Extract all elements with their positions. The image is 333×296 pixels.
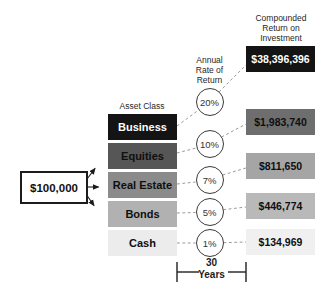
return-box-business: $38,396,396 xyxy=(246,46,315,72)
asset-box-real-estate: Real Estate xyxy=(108,172,177,198)
rate-circle-real-estate: 7% xyxy=(196,166,224,194)
asset-box-cash: Cash xyxy=(108,230,177,256)
return-box-cash: $134,969 xyxy=(246,229,315,255)
return-box-equities: $1,983,740 xyxy=(246,109,315,135)
asset-class-header: Asset Class xyxy=(104,101,180,111)
compounded-return-header: Compounded Return on Investment xyxy=(238,13,324,43)
timeline-duration: 30 xyxy=(191,257,232,269)
asset-box-business: Business xyxy=(108,114,177,140)
rate-circle-cash: 1% xyxy=(196,229,224,257)
asset-box-equities: Equities xyxy=(108,143,177,169)
asset-box-bonds: Bonds xyxy=(108,201,177,227)
timeline-unit: Years xyxy=(191,269,232,281)
principal-amount-box: $100,000 xyxy=(20,171,88,204)
return-box-bonds: $446,774 xyxy=(246,193,315,219)
rate-circle-business: 20% xyxy=(196,88,224,116)
rate-circle-bonds: 5% xyxy=(196,198,224,226)
return-box-real-estate: $811,650 xyxy=(246,153,315,179)
rate-circle-equities: 10% xyxy=(196,130,224,158)
annual-rate-header: Annual Rate of Return xyxy=(182,55,237,85)
timeline-label: 30 Years xyxy=(191,257,232,280)
investment-growth-diagram: Asset Class Annual Rate of Return Compou… xyxy=(0,0,333,296)
principal-arrows xyxy=(87,169,99,206)
